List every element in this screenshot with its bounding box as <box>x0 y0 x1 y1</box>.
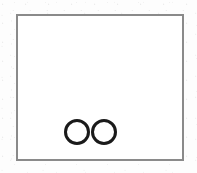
left-ring-icon <box>66 121 89 144</box>
scanned-page <box>0 0 197 173</box>
right-ring-icon <box>93 121 116 144</box>
double-ring-mark <box>63 117 119 147</box>
